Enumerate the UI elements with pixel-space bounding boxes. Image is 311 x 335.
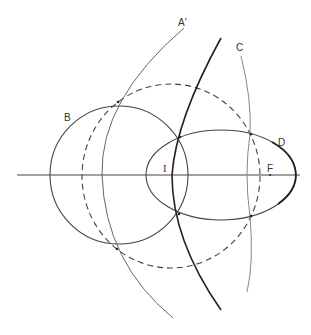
intersection-point-top-left	[117, 101, 120, 104]
label-d: D	[278, 137, 285, 148]
label-a-prime: A'	[178, 17, 187, 28]
intersection-point-bottom-left	[116, 248, 119, 251]
label-i: I	[163, 162, 167, 174]
label-b: B	[64, 112, 71, 123]
ellipse-d-bold-segment	[272, 142, 296, 204]
point-f	[269, 174, 271, 176]
label-f: F	[267, 163, 273, 174]
intersection-point-bottom-mid	[178, 213, 181, 216]
arc-c	[241, 56, 251, 292]
intersection-point-top-mid	[179, 136, 182, 139]
intersection-point-top-right	[250, 133, 253, 136]
intersection-point-bottom-right	[250, 215, 253, 218]
thick-curve	[172, 38, 221, 310]
label-c: C	[236, 42, 243, 53]
geometric-construction-diagram: A' B C D I F	[0, 0, 311, 335]
dashed-circle	[82, 84, 260, 268]
